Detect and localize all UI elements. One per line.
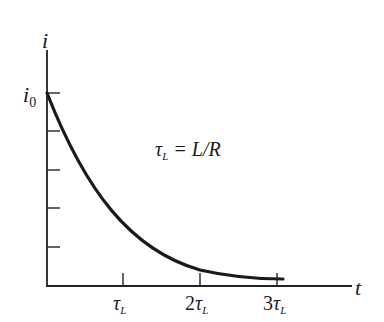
decay-curve — [47, 93, 283, 279]
coef-3: 3 — [263, 292, 273, 314]
tau-sub: L — [280, 304, 286, 316]
i0-label: i0 — [23, 82, 36, 111]
tick-label-2tau: 2τL — [185, 292, 208, 316]
tick-label-3tau: 3τL — [263, 292, 286, 316]
tick-label-tau: τL — [113, 292, 126, 316]
x-axis-label: t — [355, 275, 361, 301]
y-axis-label: i — [42, 28, 48, 54]
coef-2: 2 — [185, 292, 195, 314]
tau-sub: L — [202, 304, 208, 316]
tau-sub: L — [120, 304, 126, 316]
i0-sub: 0 — [29, 95, 36, 110]
time-constant-equation: τL = L/R — [155, 138, 221, 162]
equation-rhs: = L/R — [168, 138, 220, 160]
